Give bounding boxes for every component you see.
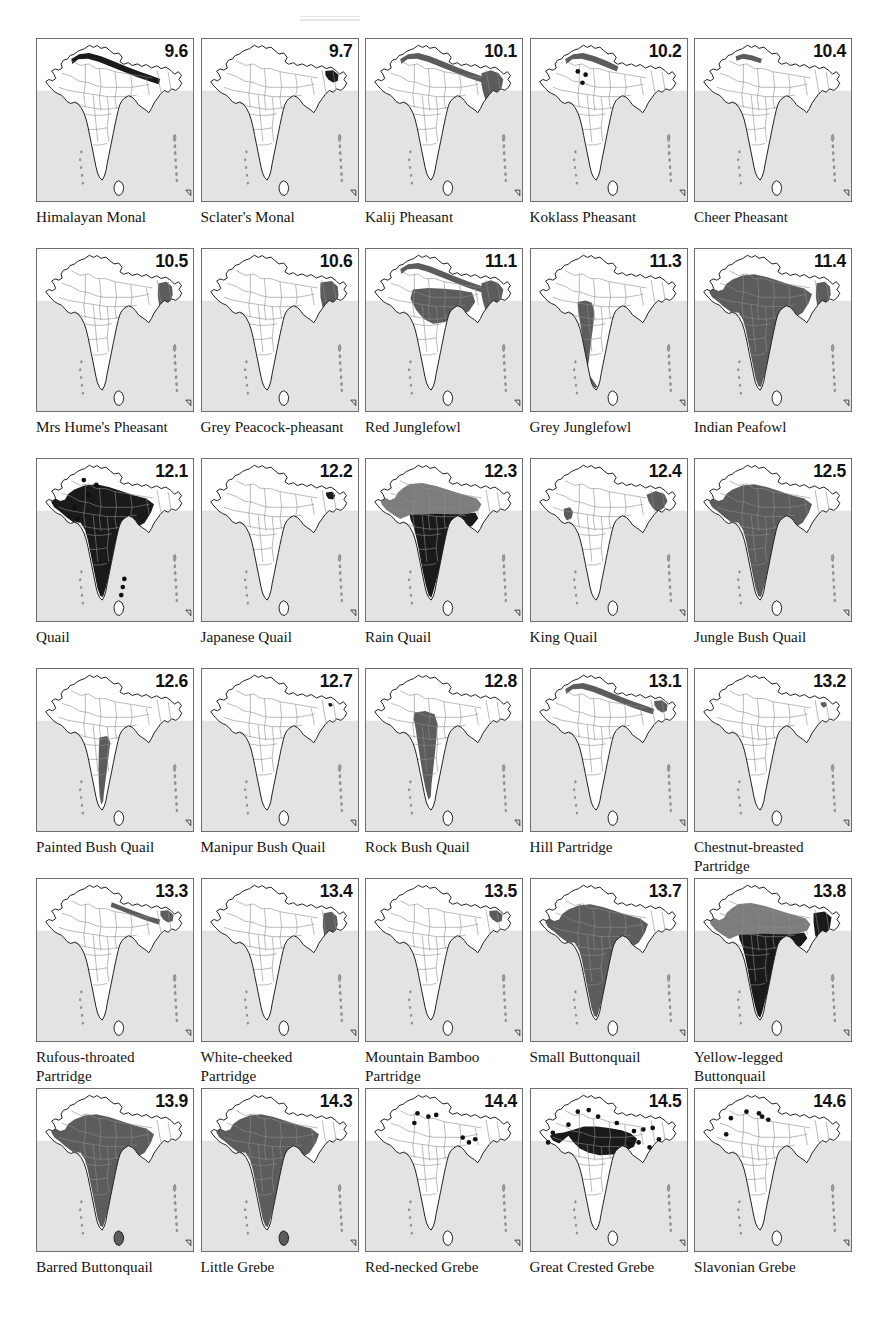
distribution-map <box>202 459 358 621</box>
panel-caption: Small Buttonquail <box>530 1048 695 1067</box>
panel-number: 13.3 <box>155 880 188 901</box>
panel-number: 13.2 <box>813 670 846 691</box>
map-panel[interactable]: 13.8 <box>694 878 852 1042</box>
map-panel[interactable]: 13.9 <box>36 1088 194 1252</box>
panel-caption: Chestnut-breasted Partridge <box>694 838 859 875</box>
panel-caption: Grey Peacock-pheasant <box>201 418 366 437</box>
map-cell: 12.3Rain Quail <box>365 458 525 668</box>
map-panel[interactable]: 11.1 <box>365 248 523 412</box>
distribution-map <box>37 459 193 621</box>
map-panel[interactable]: 13.3 <box>36 878 194 1042</box>
map-panel[interactable]: 12.3 <box>365 458 523 622</box>
map-panel[interactable]: 10.1 <box>365 38 523 202</box>
map-panel[interactable]: 10.4 <box>694 38 852 202</box>
distribution-map <box>531 459 687 621</box>
panel-number: 9.6 <box>165 40 188 61</box>
panel-number: 11.3 <box>650 250 682 271</box>
panel-number: 10.4 <box>813 40 846 61</box>
panel-number: 12.8 <box>484 670 517 691</box>
panel-number: 11.4 <box>814 250 846 271</box>
panel-number: 12.4 <box>649 460 682 481</box>
panel-number: 12.1 <box>155 460 188 481</box>
map-panel[interactable]: 14.5 <box>530 1088 688 1252</box>
map-panel[interactable]: 11.3 <box>530 248 688 412</box>
panel-number: 13.9 <box>155 1090 188 1111</box>
map-cell: 12.6Painted Bush Quail <box>36 668 196 878</box>
map-grid: 9.6Himalayan Monal9.7Sclater's Monal10.1… <box>36 38 860 1298</box>
map-cell: 11.1Red Junglefowl <box>365 248 525 458</box>
map-cell: 13.4White-cheeked Partridge <box>201 878 361 1088</box>
distribution-map <box>202 669 358 831</box>
panel-caption: White-cheeked Partridge <box>201 1048 366 1085</box>
map-cell: 9.7Sclater's Monal <box>201 38 361 248</box>
map-panel[interactable]: 9.6 <box>36 38 194 202</box>
map-panel[interactable]: 13.7 <box>530 878 688 1042</box>
distribution-map <box>695 1089 851 1251</box>
panel-caption: Kalij Pheasant <box>365 208 530 227</box>
panel-number: 14.3 <box>320 1090 353 1111</box>
map-panel[interactable]: 14.4 <box>365 1088 523 1252</box>
panel-caption: King Quail <box>530 628 695 647</box>
map-cell: 10.1Kalij Pheasant <box>365 38 525 248</box>
map-cell: 13.8Yellow-legged Buttonquail <box>694 878 854 1088</box>
panel-number: 13.8 <box>813 880 846 901</box>
map-panel[interactable]: 11.4 <box>694 248 852 412</box>
map-cell: 12.5Jungle Bush Quail <box>694 458 854 668</box>
panel-number: 10.2 <box>649 40 682 61</box>
panel-caption: Hill Partridge <box>530 838 695 857</box>
distribution-map <box>531 39 687 201</box>
map-panel[interactable]: 13.5 <box>365 878 523 1042</box>
panel-caption: Rock Bush Quail <box>365 838 530 857</box>
map-panel[interactable]: 12.8 <box>365 668 523 832</box>
map-cell: 13.5Mountain Bamboo Partridge <box>365 878 525 1088</box>
panel-caption: Cheer Pheasant <box>694 208 859 227</box>
distribution-map <box>366 459 522 621</box>
panel-caption: Rufous-throated Partridge <box>36 1048 201 1085</box>
distribution-map <box>202 249 358 411</box>
panel-caption: Painted Bush Quail <box>36 838 201 857</box>
map-cell: 14.5Great Crested Grebe <box>530 1088 690 1298</box>
map-panel[interactable]: 9.7 <box>201 38 359 202</box>
map-panel[interactable]: 12.4 <box>530 458 688 622</box>
panel-caption: Red Junglefowl <box>365 418 530 437</box>
map-panel[interactable]: 10.6 <box>201 248 359 412</box>
panel-caption: Japanese Quail <box>201 628 366 647</box>
panel-number: 10.5 <box>155 250 188 271</box>
map-panel[interactable]: 12.7 <box>201 668 359 832</box>
distribution-map <box>37 249 193 411</box>
registration-marks <box>300 16 360 22</box>
panel-number: 13.4 <box>320 880 353 901</box>
map-panel[interactable]: 12.6 <box>36 668 194 832</box>
panel-caption: Grey Junglefowl <box>530 418 695 437</box>
map-panel[interactable]: 12.2 <box>201 458 359 622</box>
map-panel[interactable]: 13.2 <box>694 668 852 832</box>
panel-caption: Quail <box>36 628 201 647</box>
map-cell: 12.4King Quail <box>530 458 690 668</box>
distribution-map <box>37 39 193 201</box>
map-panel[interactable]: 13.1 <box>530 668 688 832</box>
map-cell: 14.6Slavonian Grebe <box>694 1088 854 1298</box>
distribution-map <box>531 249 687 411</box>
map-panel[interactable]: 10.2 <box>530 38 688 202</box>
map-panel[interactable]: 12.5 <box>694 458 852 622</box>
distribution-map <box>202 39 358 201</box>
map-panel[interactable]: 10.5 <box>36 248 194 412</box>
map-cell: 14.4Red-necked Grebe <box>365 1088 525 1298</box>
panel-number: 13.7 <box>649 880 682 901</box>
map-panel[interactable]: 14.6 <box>694 1088 852 1252</box>
distribution-map <box>695 459 851 621</box>
panel-caption: Yellow-legged Buttonquail <box>694 1048 859 1085</box>
panel-number: 12.7 <box>320 670 353 691</box>
map-panel[interactable]: 14.3 <box>201 1088 359 1252</box>
map-cell: 13.2Chestnut-breasted Partridge <box>694 668 854 878</box>
map-panel[interactable]: 12.1 <box>36 458 194 622</box>
distribution-map <box>531 669 687 831</box>
panel-number: 11.1 <box>485 250 517 271</box>
panel-caption: Sclater's Monal <box>201 208 366 227</box>
panel-number: 10.1 <box>484 40 517 61</box>
map-cell: 12.1Quail <box>36 458 196 668</box>
panel-caption: Rain Quail <box>365 628 530 647</box>
map-panel[interactable]: 13.4 <box>201 878 359 1042</box>
map-cell: 10.2Koklass Pheasant <box>530 38 690 248</box>
map-cell: 10.4Cheer Pheasant <box>694 38 854 248</box>
